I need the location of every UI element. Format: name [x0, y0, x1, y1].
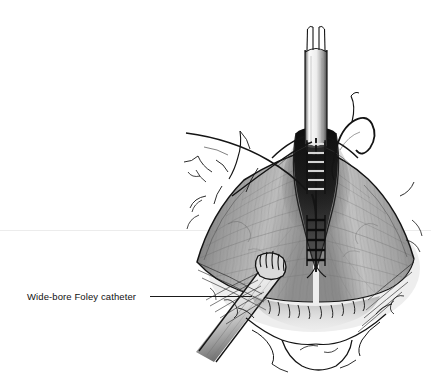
bifurcated-catheter-shaft [305, 26, 327, 155]
label-foley-catheter: Wide-bore Foley catheter [27, 291, 136, 302]
illustration-artwork [184, 26, 422, 372]
illustration-canvas: Wide-bore Foley catheter [0, 0, 431, 387]
surgical-illustration: Wide-bore Foley catheter [0, 0, 431, 387]
upper-left-tissue-marks [184, 156, 212, 229]
